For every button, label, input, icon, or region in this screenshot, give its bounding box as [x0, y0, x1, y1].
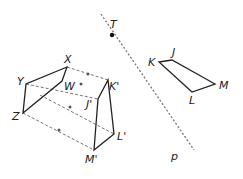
- label-L: L: [189, 94, 195, 107]
- label-K-prime: K': [109, 80, 119, 93]
- label-L-prime: L': [117, 130, 126, 143]
- quad-JKLM: [159, 60, 215, 92]
- label-Z: Z: [11, 110, 20, 123]
- label-X: X: [63, 53, 72, 66]
- quad-WXYZ: [23, 67, 67, 113]
- label-J-prime: J': [84, 98, 92, 111]
- point-T: [110, 33, 114, 37]
- midpoint-dot: [58, 129, 61, 132]
- midpoint-dot: [80, 83, 83, 86]
- geometry-diagram: T p X Y Z W K' J' L' M' K J M L: [0, 0, 243, 179]
- midpoint-dot: [87, 73, 90, 76]
- label-K: K: [148, 56, 156, 69]
- label-T: T: [110, 18, 118, 31]
- label-Y: Y: [17, 75, 25, 88]
- midpoint-dot: [69, 106, 72, 109]
- dashed-Y-Jp: [26, 84, 98, 99]
- dashed-Z-Mp: [23, 113, 94, 150]
- label-J: J: [170, 46, 175, 59]
- label-M: M: [219, 79, 229, 92]
- label-p: p: [170, 150, 178, 163]
- label-W: W: [64, 80, 76, 93]
- label-M-prime: M': [85, 153, 98, 166]
